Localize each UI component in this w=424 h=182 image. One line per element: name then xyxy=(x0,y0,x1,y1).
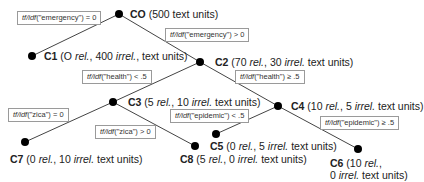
node-count: , 5 xyxy=(253,140,268,152)
condition-epidemic-lt-05: tf/idf("epidemic") < .5 xyxy=(170,109,249,123)
node-suffix: text units) xyxy=(359,169,407,181)
node-label-c0: CO (500 text units) xyxy=(130,8,218,20)
irrel-label: irrel. xyxy=(116,50,136,62)
node-label-line1: C6 (10 rel., xyxy=(330,157,408,169)
node-label-c2: C2 (70 rel., 30 irrel. text units) xyxy=(215,56,353,68)
node-label-c4: C4 (10 rel., 5 irrel. text units) xyxy=(291,100,424,112)
node-name: C4 xyxy=(291,100,304,112)
condition-health-lt-05: tf/idf("health") < .5 xyxy=(82,70,152,84)
threshold: ) ≥ .5 xyxy=(282,72,299,81)
node-suffix: , text units) xyxy=(136,50,187,62)
rel-label: rel. xyxy=(364,157,379,169)
node-count: , 0 xyxy=(223,153,238,165)
metric-label: tf/idf xyxy=(22,13,36,22)
node-name: CO xyxy=(130,8,146,20)
rel-label: rel. xyxy=(209,153,224,165)
node-name: C6 xyxy=(330,157,343,169)
condition-emergency-gt-0: tf/idf("emergency") > 0 xyxy=(165,28,249,42)
node-suffix: text units) xyxy=(305,56,353,68)
term: "health" xyxy=(104,72,130,81)
term: "emergency" xyxy=(187,30,229,39)
condition-zica-gt-0: tf/idf("zica") > 0 xyxy=(95,125,156,139)
term: "zica" xyxy=(117,127,136,136)
term: "epidemic" xyxy=(192,111,227,120)
threshold: ) > 0 xyxy=(229,30,244,39)
node-count: (0 xyxy=(26,153,38,165)
node-name: C3 xyxy=(128,96,141,108)
node-dot-c3 xyxy=(109,98,117,106)
irrel-label: irrel. xyxy=(284,56,304,68)
rel-label: rel. xyxy=(39,153,54,165)
condition-epidemic-ge-05: tf/idf("epidemic") ≥ .5 xyxy=(320,116,399,130)
node-dot-c0 xyxy=(115,10,123,18)
node-dot-c1 xyxy=(28,52,36,60)
threshold: ) < .5 xyxy=(129,72,146,81)
term: "zica" xyxy=(30,110,49,119)
node-count: (5 xyxy=(196,153,208,165)
node-count: (5 xyxy=(144,96,156,108)
metric-label: tf/idf xyxy=(325,118,339,127)
threshold: ) < .5 xyxy=(227,111,244,120)
node-count: , 400 xyxy=(90,50,116,62)
node-count: (500 text units) xyxy=(149,8,218,20)
node-dot-c6 xyxy=(354,145,362,153)
node-count: , 5 xyxy=(340,100,355,112)
irrel-label: irrel. xyxy=(238,153,258,165)
node-label-c3: C3 (5 rel., 10 irrel. text units) xyxy=(128,96,261,108)
node-label-c6: C6 (10 rel., 0 irrel. text units) xyxy=(330,157,408,181)
metric-label: tf/idf xyxy=(100,127,114,136)
node-count: (10 xyxy=(346,157,364,169)
node-dot-c8 xyxy=(191,142,199,150)
node-count: (O xyxy=(60,50,75,62)
node-name: C5 xyxy=(210,140,223,152)
node-dot-c4 xyxy=(274,102,282,110)
node-count: , 10 xyxy=(53,153,73,165)
node-name: C8 xyxy=(180,153,193,165)
threshold: ) ≥ .5 xyxy=(377,118,394,127)
rel-label: rel. xyxy=(157,96,172,108)
term: "health" xyxy=(257,72,283,81)
node-label-line2: 0 irrel. text units) xyxy=(330,169,408,181)
node-name: C7 xyxy=(10,153,23,165)
node-suffix: text units) xyxy=(212,96,260,108)
node-count: 0 xyxy=(330,169,339,181)
node-count: (10 xyxy=(307,100,325,112)
node-count: , 30 xyxy=(264,56,284,68)
node-count: (0 xyxy=(226,140,238,152)
threshold: ) > 0 xyxy=(135,127,150,136)
threshold: ) = 0 xyxy=(48,110,63,119)
metric-label: tf/idf xyxy=(175,111,189,120)
irrel-label: irrel. xyxy=(355,100,375,112)
node-count: , xyxy=(379,157,382,169)
node-label-c8: C8 (5 rel., 0 irrel. text units) xyxy=(180,153,307,165)
rel-label: rel. xyxy=(75,50,90,62)
node-count: , 10 xyxy=(171,96,191,108)
node-dot-c2 xyxy=(196,58,204,66)
metric-label: tf/idf xyxy=(87,72,101,81)
rel-label: rel. xyxy=(249,56,264,68)
condition-zica-eq-0: tf/idf("zica") = 0 xyxy=(8,108,69,122)
node-suffix: text units) xyxy=(258,153,306,165)
metric-label: tf/idf xyxy=(13,110,27,119)
node-suffix: text units) xyxy=(288,140,336,152)
irrel-label: irrel. xyxy=(192,96,212,108)
node-count: (70 xyxy=(231,56,249,68)
node-name: C2 xyxy=(215,56,228,68)
term: "emergency" xyxy=(39,13,81,22)
node-name: C1 xyxy=(44,50,57,62)
rel-label: rel. xyxy=(239,140,254,152)
node-label-c1: C1 (O rel., 400 irrel., text units) xyxy=(44,50,188,62)
metric-label: tf/idf xyxy=(170,30,184,39)
irrel-label: irrel. xyxy=(268,140,288,152)
node-suffix: text units) xyxy=(94,153,142,165)
rel-label: rel. xyxy=(325,100,340,112)
node-dot-c7 xyxy=(21,138,29,146)
condition-emergency-eq-0: tf/idf("emergency") = 0 xyxy=(17,11,101,25)
metric-label: tf/idf xyxy=(240,72,254,81)
node-label-c5: C5 (0 rel., 5 irrel. text units) xyxy=(210,140,337,152)
node-suffix: text units) xyxy=(375,100,423,112)
irrel-label: irrel. xyxy=(339,169,359,181)
condition-health-ge-05: tf/idf("health") ≥ .5 xyxy=(235,70,305,84)
threshold: ) = 0 xyxy=(81,13,96,22)
term: "epidemic" xyxy=(342,118,377,127)
